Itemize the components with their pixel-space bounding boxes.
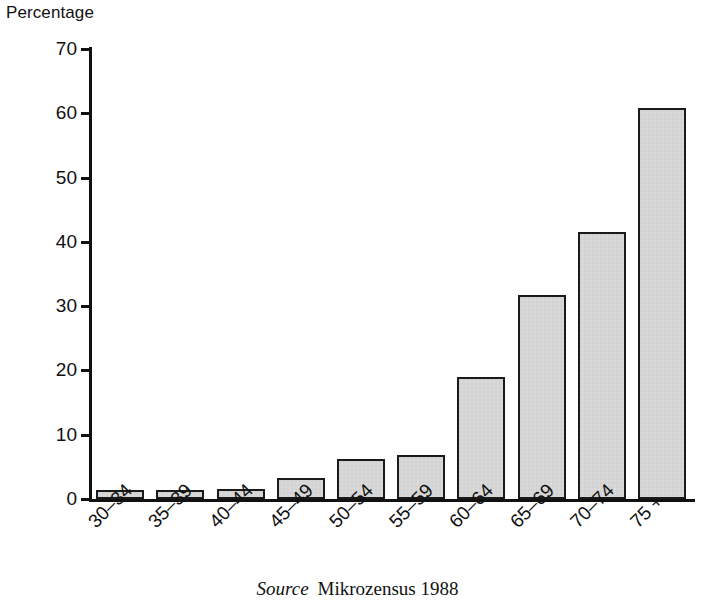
x-axis-tick-label: 30–34: [85, 480, 136, 531]
x-axis-tick-label: 55–59: [386, 480, 437, 531]
y-axis-tick: [81, 305, 90, 308]
x-axis-tick-label: 60–64: [446, 480, 497, 531]
y-axis-tick: [81, 112, 90, 115]
bar-chart-figure: Percentage 010203040506070 30–3435–3940–…: [0, 0, 715, 605]
x-axis-tick-label: 65–69: [506, 480, 557, 531]
y-axis-tick: [81, 177, 90, 180]
y-axis-tick: [81, 48, 90, 51]
x-axis-tick-label: 75 +: [626, 491, 666, 531]
x-axis-tick-label: 45–49: [265, 480, 316, 531]
source-label: Source: [257, 578, 309, 599]
source-caption: SourceMikrozensus 1988: [0, 578, 715, 600]
y-axis-tick: [81, 498, 90, 501]
x-axis-tick-label: 70–74: [566, 480, 617, 531]
source-text: Mikrozensus 1988: [318, 578, 459, 599]
y-axis-tick: [81, 369, 90, 372]
y-axis-tick: [81, 434, 90, 437]
y-axis-tick: [81, 241, 90, 244]
x-axis-tick-label: 35–39: [145, 480, 196, 531]
x-axis-tick-labels: 30–3435–3940–4445–4950–5455–5960–6465–69…: [0, 0, 715, 605]
x-axis-tick-label: 50–54: [325, 480, 376, 531]
x-axis-tick-label: 40–44: [205, 480, 256, 531]
